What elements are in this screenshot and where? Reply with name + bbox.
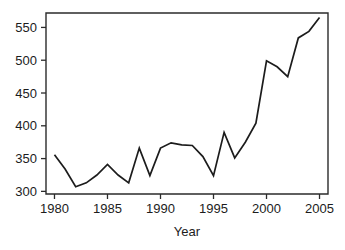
x-axis-title: Year: [174, 224, 201, 239]
y-axis-tick-label: 300: [15, 184, 37, 199]
line-chart-figure: 300350400450500550 198019851990199520002…: [0, 0, 345, 250]
chart-canvas: 300350400450500550 198019851990199520002…: [0, 0, 345, 250]
x-axis-tick-labels: 198019851990199520002005: [40, 201, 334, 216]
x-axis-tick-label: 2005: [305, 201, 334, 216]
y-axis-tick-labels: 300350400450500550: [15, 20, 37, 199]
x-axis-tick-label: 1990: [146, 201, 175, 216]
data-series-line: [54, 18, 319, 187]
x-axis-tick-label: 1995: [199, 201, 228, 216]
y-axis-tick-label: 400: [15, 118, 37, 133]
x-axis-tick-label: 2000: [252, 201, 281, 216]
y-axis-tick-label: 350: [15, 151, 37, 166]
x-axis-tick-label: 1980: [40, 201, 69, 216]
plot-frame: [46, 13, 328, 194]
x-axis-tick-marks: [54, 194, 319, 199]
y-axis-tick-label: 450: [15, 86, 37, 101]
y-axis-tick-label: 550: [15, 20, 37, 35]
x-axis-tick-label: 1985: [93, 201, 122, 216]
y-axis-tick-label: 500: [15, 53, 37, 68]
y-axis-tick-marks: [41, 27, 46, 191]
chart-screenshot: 300350400450500550 198019851990199520002…: [0, 0, 345, 250]
